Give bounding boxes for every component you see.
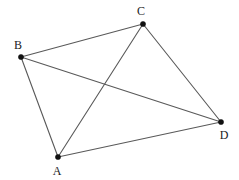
vertex-point-c <box>140 21 145 26</box>
geometry-figure: ABCD <box>0 0 239 180</box>
vertex-label-b: B <box>14 39 22 51</box>
vertex-label-d: D <box>220 129 229 141</box>
vertex-point-b <box>18 54 23 59</box>
vertex-label-c: C <box>137 5 145 17</box>
segment-bd <box>21 57 221 122</box>
segment-cd <box>143 24 221 122</box>
edges-group <box>21 24 221 157</box>
vertex-point-a <box>55 154 60 159</box>
segment-ad <box>58 122 221 157</box>
vertices-group <box>18 21 223 159</box>
figure-canvas <box>0 0 239 180</box>
vertex-point-d <box>218 119 223 124</box>
segment-ba <box>21 57 58 157</box>
vertex-label-a: A <box>53 165 62 177</box>
